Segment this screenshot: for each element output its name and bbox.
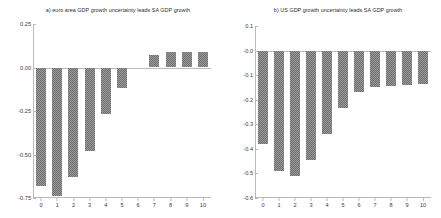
- y-axis-tick-b: -0.5: [243, 170, 255, 176]
- bar-a-5: [117, 68, 127, 89]
- x-axis-tick-label: 10: [420, 202, 426, 208]
- bar-a-9: [182, 52, 192, 68]
- x-axis-tick-a: 4: [104, 198, 107, 208]
- y-axis-tick-label: -0.4: [243, 146, 255, 152]
- x-axis-tick-mark: [138, 198, 139, 201]
- y-axis-tick-b: -0.6: [243, 195, 255, 201]
- x-axis-tick-label: 2: [72, 202, 75, 208]
- x-axis-tick-label: 4: [104, 202, 107, 208]
- y-axis-tick-label: -0.2: [243, 97, 255, 103]
- x-axis-tick-label: 6: [137, 202, 140, 208]
- x-axis-tick-label: 0: [261, 202, 264, 208]
- x-axis-tick-a: 0: [40, 198, 43, 208]
- x-axis-tick-mark: [279, 198, 280, 201]
- bar-b-10: [418, 51, 428, 84]
- x-axis-tick-mark: [73, 198, 74, 201]
- y-axis-tick-b: 0.1: [245, 23, 255, 29]
- y-axis-tick-mark: [255, 100, 258, 101]
- x-axis-tick-a: 6: [137, 198, 140, 208]
- x-axis-tick-a: 7: [153, 198, 156, 208]
- bar-b-9: [402, 51, 412, 85]
- bar-a-3: [85, 68, 95, 152]
- x-axis-tick-a: 5: [120, 198, 123, 208]
- x-axis-tick-a: 3: [88, 198, 91, 208]
- y-axis-tick-mark: [255, 51, 258, 52]
- x-axis-tick-label: 9: [185, 202, 188, 208]
- y-axis-tick-mark: [33, 24, 36, 25]
- x-axis-tick-mark: [89, 198, 90, 201]
- x-axis-tick-mark: [359, 198, 360, 201]
- x-axis-tick-mark: [263, 198, 264, 201]
- x-axis-tick-mark: [311, 198, 312, 201]
- x-axis-tick-a: 8: [169, 198, 172, 208]
- x-axis-tick-mark: [41, 198, 42, 201]
- y-axis-tick-mark: [33, 155, 36, 156]
- x-axis-tick-mark: [422, 198, 423, 201]
- x-axis-tick-mark: [154, 198, 155, 201]
- x-axis-tick-mark: [57, 198, 58, 201]
- y-axis-tick-mark: [255, 26, 258, 27]
- x-axis-tick-mark: [407, 198, 408, 201]
- y-axis-tick-mark: [255, 75, 258, 76]
- bar-a-1: [52, 68, 62, 197]
- bar-b-4: [322, 51, 332, 135]
- panel-b-plot-area: 0.1-0.0-0.1-0.2-0.3-0.4-0.5-0.6012345678…: [255, 26, 431, 198]
- x-axis-tick-b: 9: [405, 198, 408, 208]
- figure-container: a) euro area GDP growth uncertainty lead…: [0, 0, 441, 218]
- panel-a-bars: [33, 24, 211, 198]
- x-axis-tick-label: 8: [169, 202, 172, 208]
- bar-a-2: [68, 68, 78, 178]
- y-axis-tick-b: -0.0: [243, 48, 255, 54]
- y-axis-tick-mark: [255, 198, 258, 199]
- y-axis-tick-label: 0.25: [20, 21, 33, 27]
- bar-b-6: [354, 51, 364, 93]
- x-axis-tick-mark: [375, 198, 376, 201]
- y-axis-tick-mark: [255, 124, 258, 125]
- x-axis-tick-a: 1: [56, 198, 59, 208]
- x-axis-tick-mark: [105, 198, 106, 201]
- x-axis-tick-mark: [122, 198, 123, 201]
- x-axis-tick-label: 2: [293, 202, 296, 208]
- x-axis-tick-label: 6: [357, 202, 360, 208]
- y-axis-tick-b: -0.2: [243, 97, 255, 103]
- x-axis-tick-b: 0: [261, 198, 264, 208]
- panel-a-title: a) euro area GDP growth uncertainty lead…: [8, 7, 228, 13]
- x-axis-tick-label: 10: [200, 202, 206, 208]
- x-axis-tick-b: 10: [420, 198, 426, 208]
- y-axis-tick-label: -0.5: [243, 170, 255, 176]
- x-axis-tick-mark: [295, 198, 296, 201]
- y-axis-tick-label: 0.1: [245, 23, 255, 29]
- x-axis-tick-b: 6: [357, 198, 360, 208]
- x-axis-tick-a: 9: [185, 198, 188, 208]
- y-axis-tick-mark: [33, 68, 36, 69]
- x-axis-tick-label: 8: [389, 202, 392, 208]
- y-axis-tick-label: -0.3: [243, 121, 255, 127]
- x-axis-tick-mark: [391, 198, 392, 201]
- x-axis-tick-mark: [186, 198, 187, 201]
- y-axis-tick-label: -0.6: [243, 195, 255, 201]
- chart-panel-b: b) US GDP growth uncertainty leads SA GD…: [220, 0, 440, 218]
- x-axis-tick-b: 7: [373, 198, 376, 208]
- x-axis-tick-label: 0: [40, 202, 43, 208]
- x-axis-tick-a: 10: [200, 198, 206, 208]
- bar-b-5: [338, 51, 348, 109]
- bar-b-0: [258, 51, 268, 144]
- x-axis-tick-b: 5: [341, 198, 344, 208]
- y-axis-tick-b: -0.1: [243, 72, 255, 78]
- x-axis-tick-a: 2: [72, 198, 75, 208]
- bar-a-4: [101, 68, 111, 115]
- bar-b-1: [274, 51, 284, 171]
- x-axis-tick-mark: [343, 198, 344, 201]
- y-axis-tick-b: -0.4: [243, 146, 255, 152]
- x-axis-tick-mark: [327, 198, 328, 201]
- bar-b-7: [370, 51, 380, 88]
- x-axis-tick-label: 3: [309, 202, 312, 208]
- y-axis-tick-label: -0.50: [18, 152, 33, 158]
- x-axis-tick-mark: [202, 198, 203, 201]
- panel-a-plot-area: 0.250.00-0.25-0.50-0.75012345678910: [33, 24, 211, 198]
- x-axis-tick-label: 1: [277, 202, 280, 208]
- x-axis-tick-label: 7: [373, 202, 376, 208]
- x-axis-tick-label: 7: [153, 202, 156, 208]
- y-axis-tick-mark: [33, 198, 36, 199]
- y-axis-tick-b: -0.3: [243, 121, 255, 127]
